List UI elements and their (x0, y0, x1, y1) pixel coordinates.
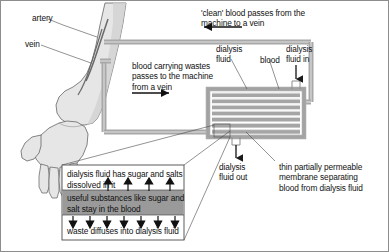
inset-middle-band-text: useful substances like sugar and salt st… (67, 193, 184, 214)
membrane-stripe (212, 112, 300, 116)
membrane-stripe (212, 106, 300, 110)
dialysis-fluid-label: dialysis fluid (216, 44, 242, 65)
vein-label: vein (25, 39, 40, 49)
blood-label: blood (260, 55, 280, 65)
callout-line-bottom (184, 137, 230, 240)
artery-leader-line (48, 19, 97, 37)
waste-blood-label: blood carrying wastes passes to the mach… (132, 61, 213, 92)
dialysis-fluid-in-label: dialysis fluid in (286, 44, 312, 65)
inset-bottom-band-text: waste diffuses into dialysis fluid (67, 226, 179, 237)
membrane-stripe (212, 100, 300, 104)
membrane-stripe (212, 124, 300, 128)
membrane-stripe (212, 118, 300, 122)
artery-label: artery (32, 13, 53, 23)
diagram-graphics-layer (1, 1, 389, 252)
vein-leader-line (41, 45, 91, 63)
dialysis-fluid-out-label: dialysis fluid out (219, 162, 247, 183)
dialysis-diagram-figure: artery vein 'clean' blood passes from th… (0, 0, 389, 252)
membrane-stripe (212, 130, 300, 134)
membrane-stripe (212, 94, 300, 98)
dialyser-unit (208, 65, 304, 158)
membrane-label: thin partially permeable membrane separa… (279, 162, 363, 193)
clean-blood-label: 'clean' blood passes from the machine to… (201, 8, 305, 29)
inset-top-band-text: dialysis fluid has sugar and salts disso… (67, 169, 183, 190)
